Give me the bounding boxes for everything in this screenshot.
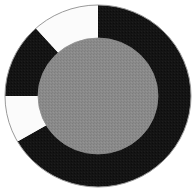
pie-chart-figure xyxy=(0,0,196,191)
pie-chart-canvas xyxy=(0,0,196,191)
pie-center-hub xyxy=(38,38,158,154)
